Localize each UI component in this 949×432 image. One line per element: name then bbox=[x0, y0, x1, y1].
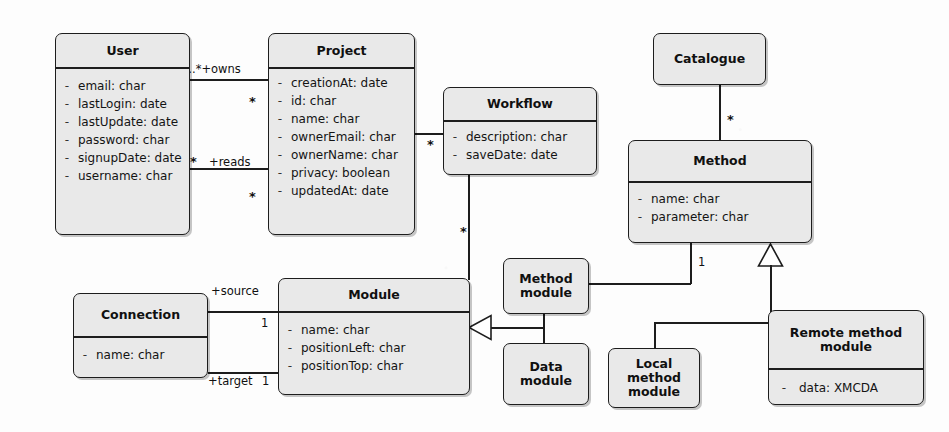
gen-line-modules-to-module bbox=[488, 327, 544, 329]
attribute-signature: description: char bbox=[466, 131, 596, 143]
multiplicity-target: 1 bbox=[262, 376, 269, 388]
class-name-module: Module bbox=[279, 279, 469, 311]
class-name-line-2: module bbox=[520, 286, 572, 300]
attribute-signature: username: char bbox=[78, 170, 189, 182]
visibility-marker: - bbox=[56, 116, 78, 128]
attribute-row: - data: XMCDA bbox=[769, 379, 923, 397]
class-name-workflow: Workflow bbox=[444, 88, 596, 120]
class-box-module[interactable]: Module - name: char - positionLeft: char… bbox=[278, 278, 470, 395]
assoc-line-method-methodmodule-horizontal bbox=[588, 283, 691, 285]
gen-line-methodmodule-stub bbox=[543, 313, 545, 327]
attribute-row: - positionLeft: char bbox=[279, 339, 469, 357]
class-box-remote-method-module[interactable]: Remote method module - data: XMCDA bbox=[768, 310, 924, 405]
attribute-row: - updatedAt: date bbox=[269, 182, 414, 200]
assoc-line-project-workflow bbox=[415, 133, 443, 135]
visibility-marker: - bbox=[769, 382, 799, 394]
attribute-row: - lastUpdate: date bbox=[56, 113, 189, 131]
attribute-compartment-remote-method-module: - data: XMCDA bbox=[769, 370, 923, 402]
multiplicity-source: 1 bbox=[261, 318, 268, 330]
class-name-line-1: Data bbox=[529, 360, 562, 374]
visibility-marker: - bbox=[269, 167, 291, 179]
class-name-method: Method bbox=[629, 141, 811, 181]
attribute-signature: lastLogin: date bbox=[78, 98, 189, 110]
visibility-marker: - bbox=[74, 349, 96, 361]
visibility-marker: - bbox=[444, 131, 466, 143]
class-box-workflow[interactable]: Workflow - description: char - saveDate:… bbox=[443, 87, 597, 175]
class-name-line-1: Local method bbox=[613, 357, 695, 385]
attribute-row: - privacy: boolean bbox=[269, 164, 414, 182]
attribute-signature: ownerEmail: char bbox=[291, 131, 414, 143]
class-box-connection[interactable]: Connection - name: char bbox=[73, 293, 208, 378]
class-name-method-module: Method module bbox=[504, 259, 588, 313]
attribute-signature: name: char bbox=[291, 113, 414, 125]
class-box-catalogue[interactable]: Catalogue bbox=[653, 33, 766, 85]
visibility-marker: - bbox=[56, 134, 78, 146]
attribute-signature: saveDate: date bbox=[466, 149, 596, 161]
visibility-marker: - bbox=[629, 193, 651, 205]
class-box-data-module[interactable]: Data module bbox=[503, 343, 589, 405]
attribute-row: - id: char bbox=[269, 92, 414, 110]
attribute-row: - parameter: char bbox=[629, 208, 811, 226]
attribute-compartment-project: - creationAt: date - id: char - name: ch… bbox=[269, 69, 414, 205]
class-name-line-2: module bbox=[628, 385, 680, 399]
class-name-project: Project bbox=[269, 34, 414, 67]
class-box-project[interactable]: Project - creationAt: date - id: char - … bbox=[268, 33, 415, 235]
class-box-local-method-module[interactable]: Local method module bbox=[608, 348, 700, 408]
attribute-row: - name: char bbox=[629, 190, 811, 208]
attribute-signature: email: char bbox=[78, 80, 189, 92]
attribute-signature: name: char bbox=[651, 193, 811, 205]
class-box-method-module[interactable]: Method module bbox=[503, 258, 589, 314]
assoc-line-catalogue-method bbox=[719, 85, 721, 141]
attribute-signature: ownerName: char bbox=[291, 149, 414, 161]
attribute-row: - name: char bbox=[279, 321, 469, 339]
attribute-signature: parameter: char bbox=[651, 211, 811, 223]
visibility-marker: - bbox=[279, 342, 301, 354]
attribute-row: - positionTop: char bbox=[279, 357, 469, 375]
attribute-row: - email: char bbox=[56, 77, 189, 95]
multiplicity-user-reads: * bbox=[190, 155, 197, 168]
visibility-marker: - bbox=[444, 149, 466, 161]
attribute-signature: updatedAt: date bbox=[291, 185, 414, 197]
assoc-line-connection-source-module bbox=[208, 311, 278, 313]
attribute-row: - signupDate: date bbox=[56, 149, 189, 167]
attribute-signature: data: XMCDA bbox=[799, 382, 923, 394]
attribute-signature: id: char bbox=[291, 95, 414, 107]
attribute-row: - name: char bbox=[74, 346, 207, 364]
class-name-remote-method-module: Remote method module bbox=[769, 311, 923, 368]
attribute-signature: name: char bbox=[96, 349, 207, 361]
attribute-signature: positionTop: char bbox=[301, 360, 469, 372]
attribute-row: - lastLogin: date bbox=[56, 95, 189, 113]
attribute-signature: name: char bbox=[301, 324, 469, 336]
visibility-marker: - bbox=[269, 131, 291, 143]
multiplicity-project-owns: * bbox=[249, 95, 256, 108]
visibility-marker: - bbox=[269, 95, 291, 107]
gen-line-method-crossbar bbox=[654, 322, 771, 324]
attribute-compartment-workflow: - description: char - saveDate: date bbox=[444, 122, 596, 169]
visibility-marker: - bbox=[279, 360, 301, 372]
attribute-signature: signupDate: date bbox=[78, 152, 189, 164]
multiplicity-workflow-module: * bbox=[460, 225, 467, 238]
multiplicity-catalogue-method: * bbox=[727, 113, 734, 126]
attribute-compartment-connection: - name: char bbox=[74, 338, 207, 369]
attribute-compartment-method: - name: char - parameter: char bbox=[629, 183, 811, 231]
class-box-method[interactable]: Method - name: char - parameter: char bbox=[628, 140, 812, 243]
visibility-marker: - bbox=[56, 80, 78, 92]
class-name-user: User bbox=[56, 34, 189, 67]
attribute-signature: lastUpdate: date bbox=[78, 116, 189, 128]
class-box-user[interactable]: User - email: char - lastLogin: date - l… bbox=[55, 33, 190, 235]
class-name-local-method-module: Local method module bbox=[609, 349, 699, 407]
attribute-row: - username: char bbox=[56, 167, 189, 185]
visibility-marker: - bbox=[279, 324, 301, 336]
uml-class-diagram: 1..*+owns * * +reads * * * * 1 +source 1… bbox=[0, 0, 949, 432]
visibility-marker: - bbox=[269, 185, 291, 197]
label-source: +source bbox=[211, 286, 259, 298]
visibility-marker: - bbox=[269, 77, 291, 89]
assoc-line-method-methodmodule-vertical bbox=[690, 243, 692, 284]
multiplicity-workflow: * bbox=[427, 138, 434, 151]
visibility-marker: - bbox=[56, 152, 78, 164]
visibility-marker: - bbox=[56, 98, 78, 110]
attribute-row: - ownerName: char bbox=[269, 146, 414, 164]
attribute-compartment-module: - name: char - positionLeft: char - posi… bbox=[279, 313, 469, 380]
attribute-row: - ownerEmail: char bbox=[269, 128, 414, 146]
visibility-marker: - bbox=[269, 113, 291, 125]
